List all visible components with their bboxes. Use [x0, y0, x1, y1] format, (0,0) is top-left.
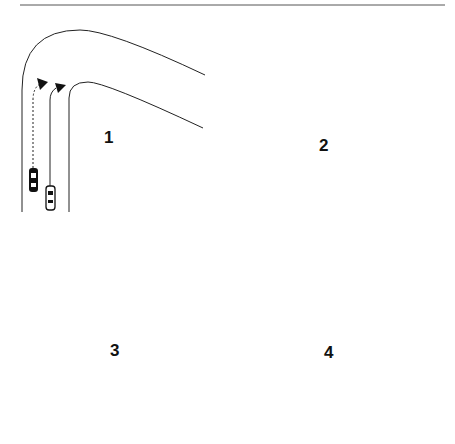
panel-1 [22, 30, 205, 212]
diagram-canvas [0, 0, 455, 444]
light-car-arrow [55, 83, 66, 93]
panel-label-2: 2 [319, 136, 328, 156]
dark-car-arrow [37, 78, 48, 90]
panel-label-1: 1 [104, 128, 113, 148]
track-outer-edge [22, 30, 205, 212]
track-inner-edge [69, 82, 203, 212]
racing-line-diagram: 1 2 3 4 [0, 0, 455, 444]
panel-label-4: 4 [324, 343, 333, 363]
dark-car-path [33, 84, 40, 168]
light-car-path [50, 88, 56, 186]
panel-label-3: 3 [110, 341, 119, 361]
dark-car [29, 168, 38, 192]
light-car [46, 186, 55, 210]
